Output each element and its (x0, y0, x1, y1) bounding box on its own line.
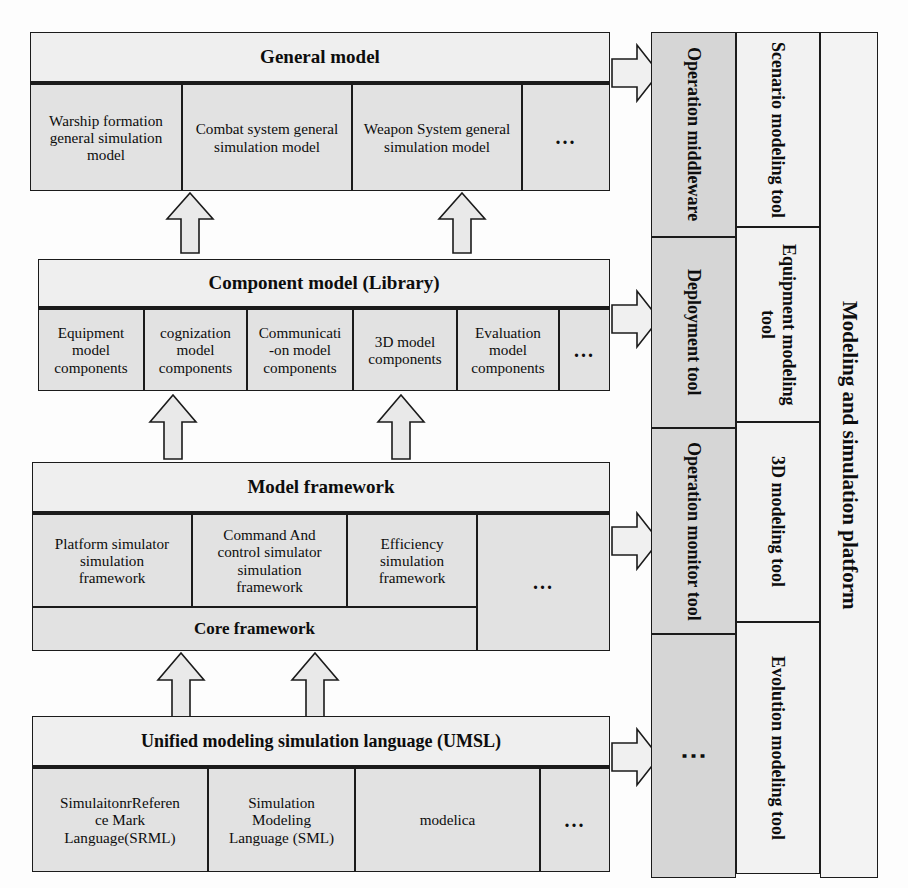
line: control simulator (217, 543, 321, 560)
line: components (368, 350, 441, 367)
line: model (159, 341, 232, 358)
line: components (259, 359, 342, 376)
panel-label: Equipment modeling tool (757, 228, 798, 421)
cell-component-model-more: ... (559, 309, 610, 391)
vertical-ellipsis-icon: ⋮ (679, 743, 709, 770)
line: SimulaitonrReferen (60, 794, 180, 811)
line: Warship formation (49, 112, 163, 129)
arrow-up-umsl-to-framework-right (290, 652, 340, 718)
panel-label: Operation middleware (683, 47, 704, 221)
line: Platform simulator (55, 535, 169, 552)
line: cognization (159, 324, 232, 341)
line: ce Mark (60, 811, 180, 828)
panel-modeling-and-simulation-platform: Modeling and simulation platform (820, 32, 878, 878)
line: Command And (217, 526, 321, 543)
line: Evaluation (471, 324, 544, 341)
line: model (49, 146, 163, 163)
line: components (471, 359, 544, 376)
cell-equipment-model-components: Equipment model components (38, 309, 144, 391)
line: Combat system general (196, 120, 339, 137)
layer-model-framework-band: Model framework (32, 462, 610, 514)
panel-label: 3D modeling tool (768, 456, 789, 587)
cell-sml: Simulation Modeling Language (SML) (208, 768, 355, 872)
line: simulation (379, 552, 446, 569)
layer-component-model-band: Component model (Library) (38, 259, 610, 309)
panel-operation-monitor-tool: Operation monitor tool (651, 428, 736, 634)
panel-deployment-tool: Deployment tool (651, 237, 736, 428)
cell-umsl-more: ... (540, 768, 610, 872)
line: Weapon System general (364, 120, 510, 137)
layer-general-model-band: General model (30, 32, 610, 84)
line: 3D model (368, 333, 441, 350)
cell-modelica: modelica (355, 768, 540, 872)
cell-srml: SimulaitonrReferen ce Mark Language(SRML… (32, 768, 208, 872)
panel-middleware-more: ⋮ (651, 634, 736, 878)
line: -on model (259, 341, 342, 358)
cell-communication-model-components: Communicati -on model components (247, 309, 353, 391)
line: general simulation (49, 129, 163, 146)
panel-label: Operation monitor tool (683, 442, 704, 621)
cell-combat-system-model: Combat system general simulation model (182, 84, 352, 191)
line: Efficiency (379, 535, 446, 552)
line: components (159, 359, 232, 376)
cell-efficiency-simulation-framework: Efficiency simulation framework (347, 514, 477, 607)
line: framework (55, 569, 169, 586)
panel-evolution-modeling-tool: Evolution modeling tool (736, 622, 820, 874)
line: Equipment (54, 324, 127, 341)
cell-3d-model-components: 3D model components (353, 309, 457, 391)
panel-3d-modeling-tool: 3D modeling tool (736, 422, 820, 622)
line: model (471, 341, 544, 358)
cell-weapon-system-model: Weapon System general simulation model (352, 84, 522, 191)
line: simulation model (196, 138, 339, 155)
diagram-canvas: General model Warship formation general … (0, 0, 908, 888)
panel-label: Modeling and simulation platform (837, 301, 861, 610)
arrow-up-framework-to-component-left (148, 394, 198, 460)
cell-evaluation-model-components: Evaluation model components (457, 309, 559, 391)
layer-umsl-band: Unified modeling simulation language (UM… (32, 716, 610, 768)
panel-operation-middleware: Operation middleware (651, 32, 736, 237)
arrow-up-component-to-general-left (165, 192, 215, 254)
line: framework (379, 569, 446, 586)
cell-core-framework: Core framework (32, 607, 477, 651)
line: simulation (217, 561, 321, 578)
line: Language (SML) (229, 829, 334, 846)
cell-platform-simulator-framework: Platform simulator simulation framework (32, 514, 192, 607)
line: simulation model (364, 138, 510, 155)
panel-equipment-modeling-tool: Equipment modeling tool (736, 227, 820, 422)
line: framework (217, 578, 321, 595)
arrow-up-component-to-general-right (437, 192, 487, 254)
line: Communicati (259, 324, 342, 341)
cell-warship-formation-model: Warship formation general simulation mod… (30, 84, 182, 191)
line: Modeling (229, 811, 334, 828)
line: Simulation (229, 794, 334, 811)
cell-general-model-more: ... (522, 84, 610, 191)
line: model (54, 341, 127, 358)
panel-label: Scenario modeling tool (768, 42, 789, 218)
line: Language(SRML) (60, 829, 180, 846)
arrow-up-framework-to-component-right (376, 394, 426, 460)
cell-cognization-model-components: cognization model components (144, 309, 247, 391)
cell-command-control-simulator-framework: Command And control simulator simulation… (192, 514, 347, 607)
panel-label: Deployment tool (683, 269, 704, 395)
panel-scenario-modeling-tool: Scenario modeling tool (736, 32, 820, 227)
cell-model-framework-more: ... (477, 514, 610, 651)
panel-label: Evolution modeling tool (768, 656, 789, 840)
arrow-up-umsl-to-framework-left (156, 652, 206, 718)
line: simulation (55, 552, 169, 569)
line: components (54, 359, 127, 376)
